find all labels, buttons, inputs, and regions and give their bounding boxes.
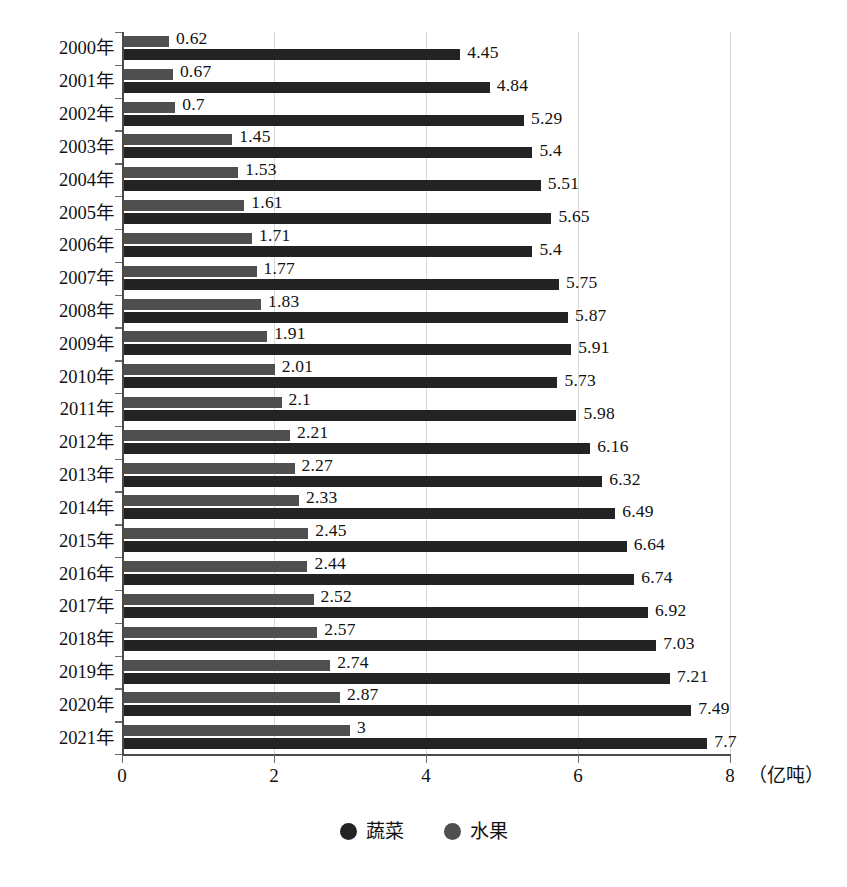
bar-vegetable bbox=[122, 476, 602, 487]
y-axis-label-2008年: 2008年 bbox=[3, 302, 115, 321]
bar-group-row: 2.216.16 bbox=[122, 426, 730, 459]
y-axis-category-labels: 2000年2001年2002年2003年2004年2005年2006年2007年… bbox=[0, 32, 115, 754]
bar-group-row: 0.674.84 bbox=[122, 65, 730, 98]
bar-value-label-fruit: 2.87 bbox=[347, 686, 378, 704]
bar-fruit bbox=[122, 594, 314, 605]
bar-group-row: 2.446.74 bbox=[122, 557, 730, 590]
bar-group-row: 1.715.4 bbox=[122, 229, 730, 262]
bar-value-label-vegetable: 5.51 bbox=[548, 175, 579, 193]
x-axis-tick bbox=[730, 755, 731, 763]
bar-fruit bbox=[122, 266, 257, 277]
bar-value-label-vegetable: 5.29 bbox=[531, 110, 562, 128]
legend-item-水果[interactable]: 水果 bbox=[444, 822, 508, 841]
y-axis-label-2017年: 2017年 bbox=[3, 597, 115, 616]
bar-value-label-vegetable: 4.45 bbox=[467, 44, 498, 62]
bar-value-label-vegetable: 6.92 bbox=[655, 602, 686, 620]
bar-vegetable bbox=[122, 607, 648, 618]
y-axis-label-2013年: 2013年 bbox=[3, 466, 115, 485]
bar-vegetable bbox=[122, 738, 707, 749]
bar-fruit bbox=[122, 167, 238, 178]
bar-vegetable bbox=[122, 640, 656, 651]
bar-value-label-vegetable: 6.74 bbox=[641, 569, 672, 587]
bar-group-row: 2.336.49 bbox=[122, 491, 730, 524]
bar-fruit bbox=[122, 299, 261, 310]
bar-vegetable bbox=[122, 213, 551, 224]
y-axis-tick bbox=[115, 656, 122, 657]
bar-fruit bbox=[122, 725, 350, 736]
bar-vegetable bbox=[122, 312, 568, 323]
bar-value-label-fruit: 1.61 bbox=[251, 194, 282, 212]
bar-group-row: 1.615.65 bbox=[122, 196, 730, 229]
x-axis-tick-label: 2 bbox=[269, 766, 279, 785]
y-axis-tick bbox=[115, 688, 122, 689]
bar-group-row: 0.75.29 bbox=[122, 98, 730, 131]
bar-group-row: 2.577.03 bbox=[122, 623, 730, 656]
bar-value-label-vegetable: 5.4 bbox=[539, 241, 561, 259]
y-axis-tick bbox=[115, 524, 122, 525]
y-axis-tick bbox=[115, 623, 122, 624]
bar-value-label-fruit: 2.57 bbox=[324, 621, 355, 639]
bar-fruit bbox=[122, 36, 169, 47]
y-axis-tick bbox=[115, 393, 122, 394]
bar-fruit bbox=[122, 495, 299, 506]
bar-group-row: 2.877.49 bbox=[122, 688, 730, 721]
bar-value-label-fruit: 1.71 bbox=[259, 227, 290, 245]
x-axis-tick-label: 6 bbox=[573, 766, 583, 785]
legend-swatch-circle-icon bbox=[340, 823, 357, 840]
y-axis-tick bbox=[115, 491, 122, 492]
bar-vegetable bbox=[122, 180, 541, 191]
bar-value-label-vegetable: 5.73 bbox=[564, 372, 595, 390]
bar-vegetable bbox=[122, 443, 590, 454]
bar-value-label-vegetable: 5.87 bbox=[575, 307, 606, 325]
bar-value-label-vegetable: 5.75 bbox=[566, 274, 597, 292]
x-axis-tick bbox=[578, 755, 579, 763]
y-axis-label-2000年: 2000年 bbox=[3, 39, 115, 58]
y-axis-tick bbox=[115, 65, 122, 66]
bar-value-label-vegetable: 5.98 bbox=[583, 405, 614, 423]
bar-fruit bbox=[122, 102, 175, 113]
bar-vegetable bbox=[122, 574, 634, 585]
bar-vegetable bbox=[122, 82, 490, 93]
y-axis-tick bbox=[115, 459, 122, 460]
y-axis-label-2002年: 2002年 bbox=[3, 105, 115, 124]
bar-vegetable bbox=[122, 147, 532, 158]
y-axis-label-2003年: 2003年 bbox=[3, 138, 115, 157]
y-axis-label-2016年: 2016年 bbox=[3, 565, 115, 584]
bar-vegetable bbox=[122, 541, 627, 552]
bar-group-row: 1.535.51 bbox=[122, 163, 730, 196]
y-axis-tick bbox=[115, 327, 122, 328]
y-axis-label-2007年: 2007年 bbox=[3, 269, 115, 288]
y-axis-tick bbox=[115, 163, 122, 164]
bar-value-label-vegetable: 7.21 bbox=[677, 668, 708, 686]
bar-value-label-fruit: 0.7 bbox=[182, 96, 204, 114]
y-axis-tick bbox=[115, 130, 122, 131]
bar-fruit bbox=[122, 200, 244, 211]
bar-vegetable bbox=[122, 673, 670, 684]
y-axis-tick bbox=[115, 196, 122, 197]
bar-value-label-vegetable: 7.03 bbox=[663, 635, 694, 653]
bar-value-label-fruit: 2.27 bbox=[302, 457, 333, 475]
bar-value-label-fruit: 3 bbox=[357, 719, 366, 737]
bar-group-row: 2.15.98 bbox=[122, 393, 730, 426]
bar-value-label-fruit: 2.74 bbox=[337, 654, 368, 672]
bar-vegetable bbox=[122, 410, 576, 421]
bar-group-row: 2.015.73 bbox=[122, 360, 730, 393]
bar-value-label-fruit: 1.77 bbox=[264, 260, 295, 278]
y-axis-label-2004年: 2004年 bbox=[3, 171, 115, 190]
legend-item-蔬菜[interactable]: 蔬菜 bbox=[340, 822, 404, 841]
x-axis-tick-label: 8 bbox=[725, 766, 735, 785]
y-axis-tick bbox=[115, 98, 122, 99]
bar-vegetable bbox=[122, 508, 615, 519]
bar-value-label-fruit: 2.1 bbox=[289, 391, 311, 409]
y-axis-tick bbox=[115, 262, 122, 263]
bar-fruit bbox=[122, 692, 340, 703]
bar-group-row: 1.455.4 bbox=[122, 130, 730, 163]
y-axis-label-2010年: 2010年 bbox=[3, 368, 115, 387]
y-axis-label-2012年: 2012年 bbox=[3, 433, 115, 452]
bar-value-label-fruit: 2.44 bbox=[314, 555, 345, 573]
y-axis-tick bbox=[115, 426, 122, 427]
legend-label: 水果 bbox=[470, 822, 508, 841]
bar-value-label-fruit: 1.53 bbox=[245, 161, 276, 179]
bar-value-label-fruit: 0.67 bbox=[180, 63, 211, 81]
y-axis-tick bbox=[115, 754, 122, 755]
